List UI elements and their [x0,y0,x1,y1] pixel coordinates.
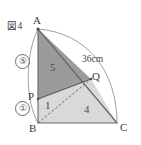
point-label-a: A [33,15,41,26]
point-label-c: C [120,122,127,133]
region-label-pbq: 1 [45,100,51,111]
geometry-figure: 図4 A B C P Q ⑤ ① 36cm 5 1 4 [0,0,141,145]
ratio-badge-pb: ① [15,101,30,116]
figure-caption: 図4 [7,22,23,32]
point-marker-p [37,98,39,100]
region-label-apq: 5 [50,62,56,73]
ratio-badge-ap: ⑤ [15,54,30,69]
point-label-p: P [28,91,34,102]
length-label-arc-ac: 36cm [82,55,103,65]
region-label-bqc: 4 [84,104,90,115]
point-label-q: Q [92,71,100,82]
point-label-b: B [29,123,36,134]
point-marker-a [36,27,39,30]
